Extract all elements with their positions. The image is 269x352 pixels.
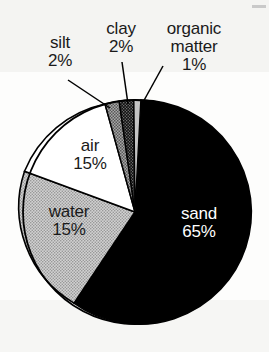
pie-label-clay-value: 2% bbox=[90, 38, 152, 56]
pie-chart-figure: silt 2% clay 2% organic matter 1% air 15… bbox=[0, 0, 269, 352]
pie-label-organic-matter-name-line2: matter bbox=[146, 38, 242, 56]
pie-label-clay-name: clay bbox=[90, 20, 152, 38]
pie-label-air: air 15% bbox=[62, 137, 118, 173]
pie-label-water-value: 15% bbox=[28, 221, 110, 239]
pie-label-sand-value: 65% bbox=[168, 223, 230, 241]
leader-line-clay bbox=[122, 62, 128, 104]
pie-label-sand: sand 65% bbox=[168, 205, 230, 241]
pie-label-organic-matter-value: 1% bbox=[146, 56, 242, 74]
pie-label-organic-matter-name-line1: organic bbox=[146, 20, 242, 38]
pie-label-silt-name: silt bbox=[30, 34, 90, 52]
pie-label-water: water 15% bbox=[28, 203, 110, 239]
pie-label-water-name: water bbox=[28, 203, 110, 221]
pie-label-clay: clay 2% bbox=[90, 20, 152, 56]
pie-label-silt-value: 2% bbox=[30, 52, 90, 70]
leader-line-silt bbox=[68, 80, 110, 108]
pie-label-air-name: air bbox=[62, 137, 118, 155]
pie-label-organic-matter: organic matter 1% bbox=[146, 20, 242, 74]
pie-label-sand-name: sand bbox=[168, 205, 230, 223]
pie-label-air-value: 15% bbox=[62, 155, 118, 173]
pie-label-silt: silt 2% bbox=[30, 34, 90, 70]
